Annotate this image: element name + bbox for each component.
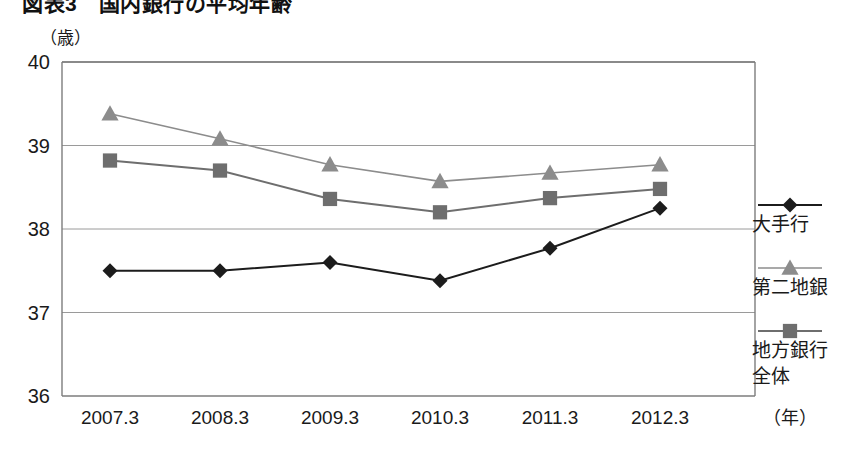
series-line xyxy=(110,114,660,182)
legend-sample-marker xyxy=(783,324,797,338)
data-point-marker xyxy=(213,263,228,278)
data-point-marker xyxy=(323,192,337,206)
x-axis-tick-label: 2009.3 xyxy=(301,407,359,428)
data-point-marker xyxy=(653,182,667,196)
x-axis-tick-label: 2012.3 xyxy=(631,407,689,428)
x-axis-tick-label: 2011.3 xyxy=(522,407,579,428)
series-triangle xyxy=(101,105,668,188)
legend-item-3[interactable]: 地方銀行全体 xyxy=(752,324,828,387)
data-point-marker xyxy=(433,205,447,219)
chart-legend: 大手行第二地銀地方銀行全体 xyxy=(752,198,828,388)
legend-label-continued: 全体 xyxy=(752,366,790,387)
x-axis-unit-label: （年） xyxy=(763,408,817,428)
data-series xyxy=(101,105,668,288)
y-axis-tick-label: 39 xyxy=(28,135,50,157)
legend-label: 大手行 xyxy=(752,214,809,235)
data-point-marker xyxy=(543,191,557,205)
data-point-marker xyxy=(433,273,448,288)
x-axis-tick-label: 2010.3 xyxy=(411,407,469,428)
y-axis-tick-label: 37 xyxy=(28,302,50,324)
data-point-marker xyxy=(101,105,118,120)
y-axis-tick-label: 36 xyxy=(28,385,50,407)
data-point-marker xyxy=(103,263,118,278)
x-axis-tick-label: 2008.3 xyxy=(191,407,249,428)
data-point-marker xyxy=(653,201,668,216)
x-axis-unit-text: （年） xyxy=(763,408,817,428)
legend-label: 第二地銀 xyxy=(752,277,828,298)
x-axis-tick-labels: 2007.32008.32009.32010.32011.32012.3 xyxy=(81,407,689,428)
data-point-marker xyxy=(543,241,558,256)
legend-item-1[interactable]: 大手行 xyxy=(752,198,822,236)
data-point-marker xyxy=(651,156,668,171)
series-diamond xyxy=(103,201,668,289)
legend-label: 地方銀行 xyxy=(752,340,828,361)
y-axis-tick-label: 38 xyxy=(28,218,50,240)
y-axis-tick-label: 40 xyxy=(28,51,50,73)
legend-sample-marker xyxy=(783,198,798,213)
series-line xyxy=(110,208,660,281)
series-square xyxy=(103,153,667,219)
y-axis-tick-labels: 3637383940 xyxy=(28,51,50,407)
x-axis-tick-label: 2007.3 xyxy=(81,407,139,428)
chart-figure: 図表3 国内銀行の平均年齢 （歳） 3637383940 2007.32008.… xyxy=(0,0,855,451)
data-point-marker xyxy=(103,153,117,167)
line-chart-plot: 3637383940 2007.32008.32009.32010.32011.… xyxy=(0,0,855,451)
data-point-marker xyxy=(323,255,338,270)
legend-sample-marker xyxy=(781,259,798,274)
legend-item-2[interactable]: 第二地銀 xyxy=(752,259,828,298)
data-point-marker xyxy=(213,163,227,177)
series-line xyxy=(110,161,660,213)
